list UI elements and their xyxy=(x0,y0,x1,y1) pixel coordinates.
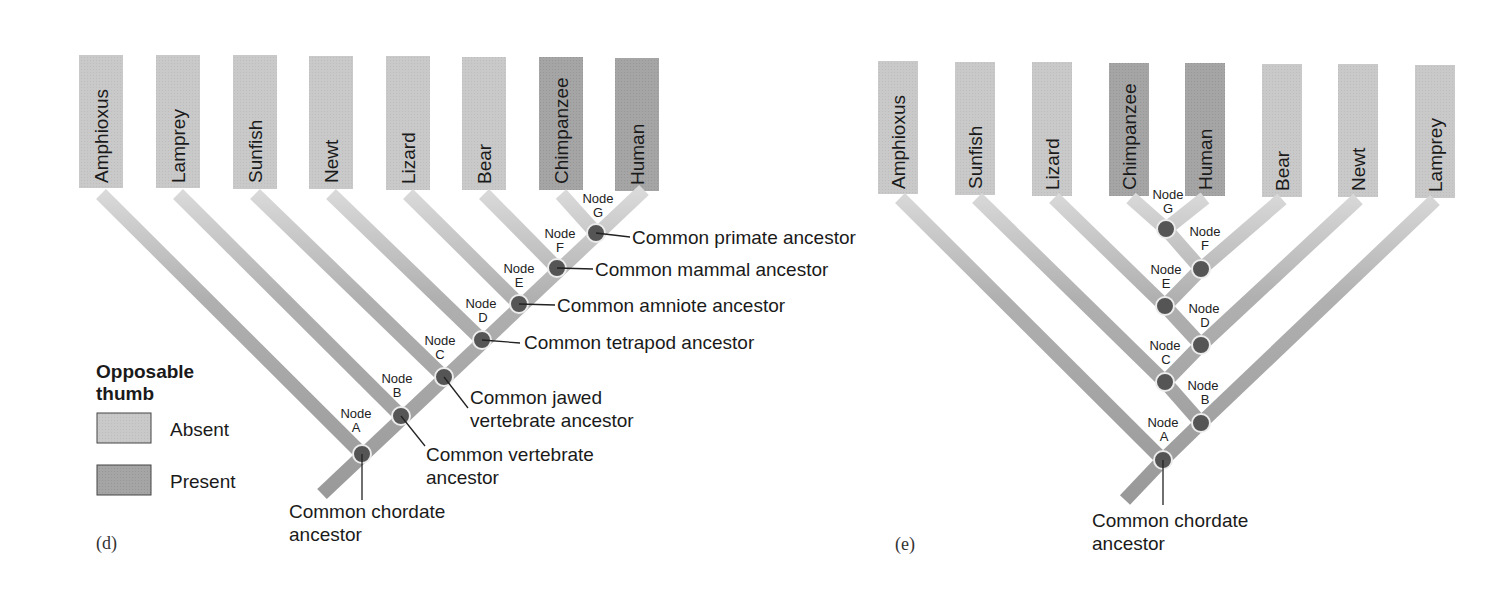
taxon-box: Amphioxus xyxy=(79,55,123,188)
panel-label-d: (d) xyxy=(96,533,117,554)
taxon-box: Human xyxy=(1185,63,1225,196)
svg-text:Sunfish: Sunfish xyxy=(965,126,986,189)
legend-item-absent: Absent xyxy=(97,413,230,443)
svg-text:Node: Node xyxy=(1147,415,1178,430)
svg-text:Common vertebrate: Common vertebrate xyxy=(426,444,594,465)
taxon-label: Sunfish xyxy=(245,120,266,183)
ancestor-label-a: Common chordate xyxy=(1092,510,1248,531)
phylogeny-figure: Amphioxus Lamprey Sunfish Newt Lizard Be… xyxy=(0,0,1510,592)
taxon-box: Sunfish xyxy=(233,55,277,189)
svg-text:C: C xyxy=(1161,352,1170,367)
svg-text:ancestor: ancestor xyxy=(426,467,500,488)
svg-text:Node: Node xyxy=(544,226,575,241)
svg-text:B: B xyxy=(393,385,402,400)
svg-text:Node: Node xyxy=(582,191,613,206)
taxon-label: Bear xyxy=(474,143,495,184)
taxa-row-d: Amphioxus Lamprey Sunfish Newt Lizard Be… xyxy=(79,55,659,191)
taxa-row-e: Amphioxus Sunfish Lizard Chimpanzee Huma… xyxy=(878,61,1455,198)
svg-text:thumb: thumb xyxy=(96,383,154,404)
svg-text:Node: Node xyxy=(1152,187,1183,202)
ancestor-label-d: Common tetrapod ancestor xyxy=(524,332,755,353)
taxon-box: Newt xyxy=(1338,64,1378,197)
svg-text:Node: Node xyxy=(424,333,455,348)
svg-text:Newt: Newt xyxy=(1348,147,1369,191)
taxon-box: Human xyxy=(615,58,659,191)
taxon-box: Bear xyxy=(1262,64,1302,197)
svg-text:vertebrate ancestor: vertebrate ancestor xyxy=(470,410,634,431)
taxon-box: Chimpanzee xyxy=(1109,63,1149,196)
panel-e: Amphioxus Sunfish Lizard Chimpanzee Huma… xyxy=(878,61,1455,555)
svg-text:ancestor: ancestor xyxy=(1092,533,1166,554)
taxon-label: Lizard xyxy=(398,132,419,184)
svg-text:F: F xyxy=(1201,238,1209,253)
svg-text:Human: Human xyxy=(1195,129,1216,190)
taxon-label: Human xyxy=(627,124,648,185)
svg-text:Node: Node xyxy=(340,406,371,421)
svg-text:Bear: Bear xyxy=(1272,150,1293,191)
taxon-box: Lizard xyxy=(1032,62,1072,196)
svg-text:E: E xyxy=(515,275,524,290)
taxon-box: Lamprey xyxy=(156,55,200,188)
taxon-label: Newt xyxy=(321,139,342,183)
taxon-box: Lizard xyxy=(386,56,430,190)
taxon-box: Lamprey xyxy=(1415,65,1455,198)
taxon-label: Lamprey xyxy=(168,109,189,183)
svg-text:Common jawed: Common jawed xyxy=(470,387,602,408)
svg-text:Node: Node xyxy=(465,296,496,311)
taxon-box: Chimpanzee xyxy=(539,57,583,190)
legend-item-present: Present xyxy=(97,465,236,495)
svg-text:D: D xyxy=(478,310,487,325)
taxon-box: Bear xyxy=(462,57,506,190)
taxon-box: Sunfish xyxy=(955,62,995,195)
panel-label-e: (e) xyxy=(895,534,915,555)
legend: Opposable thumb Absent Present xyxy=(96,361,236,495)
svg-text:Node: Node xyxy=(1149,338,1180,353)
ancestor-label-e: Common amniote ancestor xyxy=(557,295,786,316)
ancestor-label-a: Common chordate xyxy=(289,501,445,522)
svg-text:Amphioxus: Amphioxus xyxy=(888,95,909,189)
ancestor-label-f: Common mammal ancestor xyxy=(595,259,829,280)
svg-text:D: D xyxy=(1200,315,1209,330)
taxon-box: Amphioxus xyxy=(878,61,918,194)
svg-text:F: F xyxy=(556,240,564,255)
taxon-label: Chimpanzee xyxy=(551,77,572,184)
svg-text:Node: Node xyxy=(1188,301,1219,316)
ancestor-label-g: Common primate ancestor xyxy=(632,227,857,248)
taxon-box: Newt xyxy=(309,56,353,189)
svg-text:Lizard: Lizard xyxy=(1042,138,1063,190)
svg-text:Lamprey: Lamprey xyxy=(1425,118,1446,192)
svg-text:B: B xyxy=(1201,392,1210,407)
svg-text:G: G xyxy=(1163,201,1173,216)
svg-text:Present: Present xyxy=(170,471,236,492)
svg-text:Absent: Absent xyxy=(170,419,230,440)
svg-text:Node: Node xyxy=(381,371,412,386)
svg-text:Node: Node xyxy=(1187,378,1218,393)
svg-text:G: G xyxy=(593,205,603,220)
legend-title: Opposable xyxy=(96,361,194,382)
svg-text:ancestor: ancestor xyxy=(289,524,363,545)
svg-text:Node: Node xyxy=(1150,262,1181,277)
svg-text:A: A xyxy=(1160,429,1169,444)
svg-text:Node: Node xyxy=(503,261,534,276)
svg-text:Chimpanzee: Chimpanzee xyxy=(1119,83,1140,190)
svg-text:Node: Node xyxy=(1189,224,1220,239)
taxon-label: Amphioxus xyxy=(91,89,112,183)
svg-text:C: C xyxy=(435,347,444,362)
svg-text:E: E xyxy=(1162,276,1171,291)
svg-text:A: A xyxy=(352,420,361,435)
